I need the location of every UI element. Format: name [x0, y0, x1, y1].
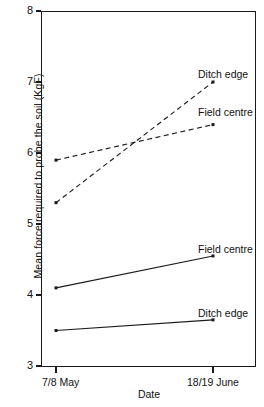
y-tick-label-4: 4: [27, 288, 33, 301]
y-tick-mark: [36, 223, 41, 224]
y-tick-label-3: 3: [27, 359, 33, 372]
annotation-solid-field-centre: Field centre: [198, 243, 253, 255]
y-tick-label-8: 8: [27, 4, 33, 17]
y-tick-label-5: 5: [27, 217, 33, 230]
chart-figure: Mean force required to probe the soil (K…: [0, 0, 264, 407]
y-tick-mark: [36, 152, 41, 153]
x-axis-label: Date: [41, 388, 257, 400]
annotation-dashed-field-centre: Field centre: [198, 106, 253, 118]
x-tick-label-june: 18/19 June: [187, 376, 239, 388]
y-tick-label-7: 7: [27, 75, 33, 88]
y-tick-label-6: 6: [27, 146, 33, 159]
x-tick-mark: [212, 367, 213, 373]
y-tick-mark: [36, 10, 41, 11]
y-tick-mark: [36, 294, 41, 295]
y-tick-mark: [36, 365, 41, 366]
y-tick-mark: [36, 81, 41, 82]
annotation-dashed-ditch-edge: Ditch edge: [198, 68, 248, 80]
annotation-solid-ditch-edge: Ditch edge: [198, 307, 248, 319]
x-tick-label-may: 7/8 May: [42, 376, 79, 388]
x-tick-mark: [55, 367, 56, 373]
